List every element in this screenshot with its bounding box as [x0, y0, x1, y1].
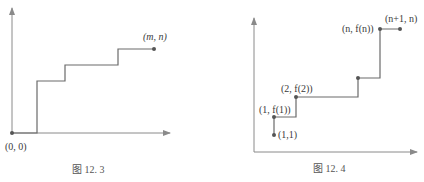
point-mid	[356, 76, 360, 80]
point-1-1	[272, 133, 276, 137]
figure-12-3: (m, n) (0, 0) 图 12. 3	[5, 8, 170, 175]
end-label: (m, n)	[143, 31, 168, 43]
label-1-1: (1,1)	[278, 129, 297, 141]
label-n1-n: (n+1, n)	[385, 13, 417, 25]
point-n1-n	[398, 27, 402, 31]
end-point	[152, 47, 156, 51]
point-n-fn	[378, 27, 382, 31]
diagram-canvas: (m, n) (0, 0) 图 12. 3 (1,1) (1, f(1)) (2…	[0, 0, 424, 182]
origin-point	[10, 131, 14, 135]
caption-12-4: 图 12. 4	[313, 163, 346, 174]
label-n-fn: (n, f(n))	[342, 23, 374, 35]
point-1-f1	[272, 115, 276, 119]
figure-12-4: (1,1) (1, f(1)) (2, f(2)) (n, f(n)) (n+1…	[254, 13, 417, 174]
label-2-f2: (2, f(2))	[281, 83, 313, 95]
caption-12-3: 图 12. 3	[72, 164, 105, 175]
point-2-f2	[294, 95, 298, 99]
function-path	[274, 29, 400, 135]
origin-label: (0, 0)	[5, 141, 27, 153]
lattice-path	[12, 49, 154, 133]
label-1-f1: (1, f(1))	[259, 104, 291, 116]
